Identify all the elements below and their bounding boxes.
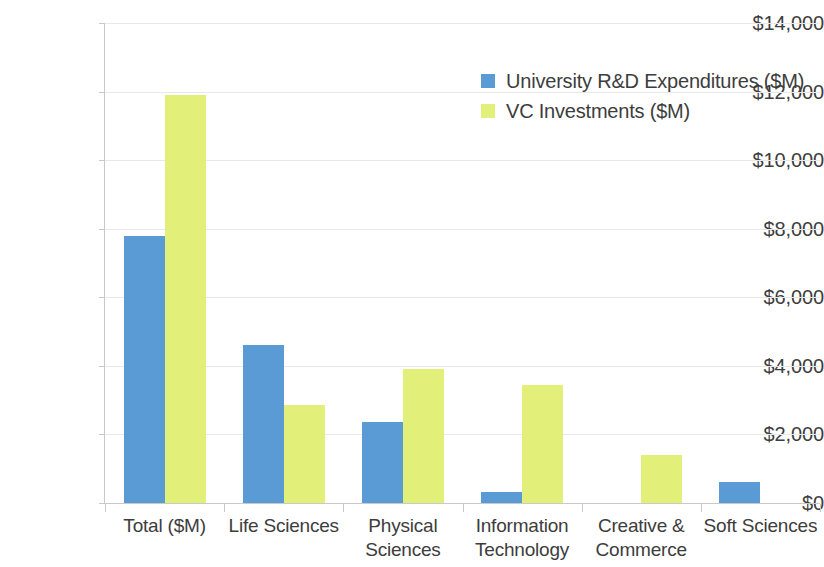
gridline	[105, 297, 820, 298]
bar[interactable]	[124, 236, 165, 503]
legend-swatch-icon	[481, 74, 495, 88]
x-axis-category-label: Information Technology	[463, 514, 582, 562]
gridline	[105, 23, 820, 24]
bar-group	[362, 23, 444, 503]
x-axis-tick-mark	[582, 504, 583, 512]
bar-group	[243, 23, 325, 503]
bar[interactable]	[165, 95, 206, 503]
legend-item-label: University R&D Expenditures ($M)	[506, 70, 804, 93]
legend-swatch-icon	[481, 104, 495, 118]
bar[interactable]	[719, 482, 760, 503]
x-axis-tick-mark	[463, 504, 464, 512]
legend-item[interactable]: VC Investments ($M)	[481, 96, 804, 126]
x-axis-tick-mark	[224, 504, 225, 512]
x-axis-tick-mark	[343, 504, 344, 512]
gridline	[105, 366, 820, 367]
x-axis-category-label: Soft Sciences	[701, 514, 820, 538]
legend-item[interactable]: University R&D Expenditures ($M)	[481, 66, 804, 96]
x-axis-category-label: Life Sciences	[224, 514, 343, 538]
x-axis-tick-mark	[820, 504, 821, 512]
gridline	[105, 229, 820, 230]
bar[interactable]	[362, 422, 403, 503]
bar[interactable]	[522, 385, 563, 503]
legend-item-label: VC Investments ($M)	[506, 100, 690, 123]
chart-legend: University R&D Expenditures ($M) VC Inve…	[481, 66, 804, 126]
gridline	[105, 160, 820, 161]
x-axis-category-label: Total ($M)	[105, 514, 224, 538]
bar[interactable]	[243, 345, 284, 503]
bar[interactable]	[403, 369, 444, 503]
x-axis-category-label: Creative & Commerce	[582, 514, 701, 562]
bar[interactable]	[284, 405, 325, 503]
bar[interactable]	[641, 455, 682, 503]
x-axis-tick-mark	[105, 504, 106, 512]
x-axis-category-label: Physical Sciences	[343, 514, 462, 562]
bar-group	[124, 23, 206, 503]
bar-chart: $0$2,000$4,000$6,000$8,000$10,000$12,000…	[0, 0, 824, 567]
x-axis-tick-mark	[701, 504, 702, 512]
gridline	[105, 434, 820, 435]
bar[interactable]	[481, 492, 522, 503]
